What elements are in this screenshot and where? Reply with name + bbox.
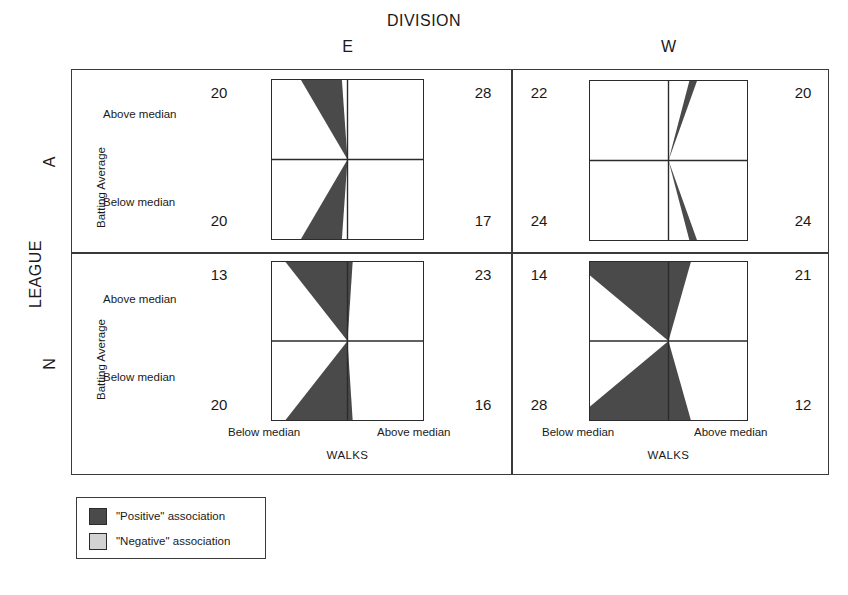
y-axis-title-n-e: Batting Average	[95, 319, 107, 400]
fourfold-square-a-e	[271, 79, 424, 240]
count-n-w-top-left: 14	[516, 266, 562, 283]
count-a-e-top-left: 20	[196, 84, 242, 101]
count-a-w-top-left: 22	[516, 84, 562, 101]
x-tick-above-median-n-w: Above median	[694, 426, 768, 438]
y-axis-title-a-e: Batting Average	[95, 147, 107, 228]
x-tick-below-median-n-w: Below median	[542, 426, 614, 438]
x-tick-above-median-n-e: Above median	[377, 426, 451, 438]
legend: "Positive" association "Negative" associ…	[76, 497, 266, 559]
legend-swatch-negative-icon	[89, 533, 107, 550]
fourfold-wedge	[669, 161, 744, 241]
count-a-e-bottom-left: 20	[196, 212, 242, 229]
count-a-w-bottom-left: 24	[516, 212, 562, 229]
count-n-e-top-right: 23	[460, 266, 506, 283]
count-n-e-top-left: 13	[196, 266, 242, 283]
legend-item-positive: "Positive" association	[89, 506, 225, 526]
y-tick-above-median-n-e: Above median	[103, 293, 177, 305]
fourfold-wedge	[669, 81, 744, 161]
fourfold-wedge	[272, 80, 348, 160]
count-a-e-bottom-right: 17	[460, 212, 506, 229]
legend-label-negative: "Negative" association	[116, 535, 230, 547]
fourfold-square-n-e	[271, 261, 424, 421]
panel-divider-vertical	[511, 69, 513, 475]
fourfold-square-a-w	[589, 80, 748, 241]
row-header-n: N	[41, 324, 59, 404]
count-n-w-bottom-left: 28	[516, 396, 562, 413]
count-n-w-bottom-right: 12	[780, 396, 826, 413]
fourfold-wedge	[590, 262, 729, 341]
y-tick-below-median-a-e: Below median	[103, 196, 175, 208]
legend-item-negative: "Negative" association	[89, 531, 230, 551]
fourfold-wedge	[272, 262, 362, 341]
x-axis-title-n-e: WALKS	[271, 449, 424, 461]
x-axis-title-n-w: WALKS	[589, 449, 748, 461]
fourfold-wedge	[590, 341, 729, 420]
count-n-w-top-right: 21	[780, 266, 826, 283]
x-tick-below-median-n-e: Below median	[228, 426, 300, 438]
column-header-w: W	[589, 38, 748, 56]
count-n-e-bottom-right: 16	[460, 396, 506, 413]
row-header-a: A	[41, 122, 59, 202]
fourfold-square-n-w	[589, 261, 748, 421]
panel-divider-horizontal	[71, 252, 829, 254]
count-a-e-top-right: 28	[460, 84, 506, 101]
count-a-w-top-right: 20	[780, 84, 826, 101]
count-a-w-bottom-right: 24	[780, 212, 826, 229]
fourfold-wedge	[272, 160, 348, 240]
count-n-e-bottom-left: 20	[196, 396, 242, 413]
column-header-e: E	[271, 38, 424, 56]
legend-label-positive: "Positive" association	[116, 510, 225, 522]
legend-swatch-positive-icon	[89, 508, 107, 525]
y-tick-below-median-n-e: Below median	[103, 371, 175, 383]
division-axis-title: DIVISION	[0, 12, 848, 30]
y-tick-above-median-a-e: Above median	[103, 108, 177, 120]
fourfold-wedge	[272, 341, 362, 420]
league-axis-title: LEAGUE	[27, 214, 45, 334]
